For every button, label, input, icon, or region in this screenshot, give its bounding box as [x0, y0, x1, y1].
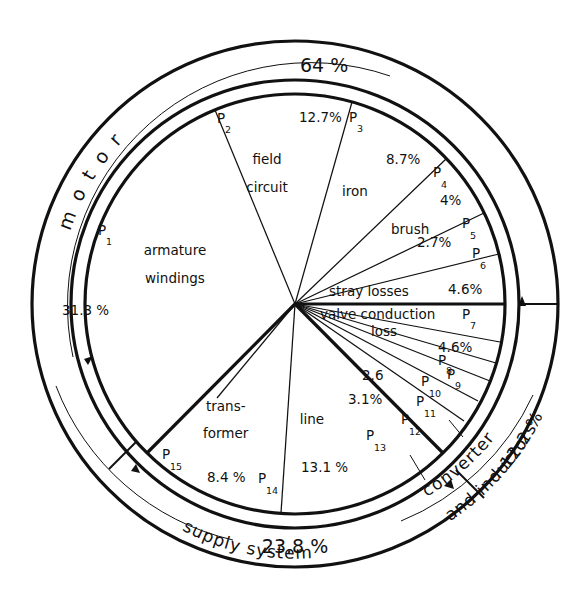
ray-p14-p15 — [217, 304, 295, 398]
p5-tag: P — [462, 215, 470, 231]
p11-tag: P — [416, 393, 424, 409]
valve-label-line1: valve conduction — [320, 306, 435, 322]
p3-percent: 8.7% — [386, 151, 420, 167]
p13-percent: 13.1 % — [301, 459, 348, 475]
p10-subscript: 10 — [429, 388, 441, 399]
p2-subscript: 2 — [225, 124, 231, 135]
slice-label-p7: valve conduction loss P 7 4.6% — [320, 306, 476, 355]
p6-percent: 4.6% — [448, 281, 482, 297]
p4-subscript: 4 — [441, 179, 447, 190]
stray-losses-label: stray losses — [329, 283, 409, 299]
leader-p12-callout — [449, 420, 463, 437]
field-label-line2: circuit — [246, 179, 287, 195]
transformer-label-line1: trans- — [206, 398, 246, 414]
ray-p1-p2 — [215, 110, 295, 304]
line-label: line — [300, 411, 324, 427]
p6-subscript: 6 — [480, 260, 486, 271]
p15-subscript: 15 — [170, 461, 182, 472]
p4-tag: P — [433, 164, 441, 180]
p15-tag: P — [162, 446, 170, 462]
p3-tag: P — [349, 109, 357, 125]
p10-tag: P — [421, 373, 429, 389]
p13-tag: P — [366, 427, 374, 443]
p1-tag: P — [98, 222, 106, 238]
p10-percent: 2.6 — [362, 367, 383, 383]
p5-percent: 2.7% — [417, 234, 451, 250]
p9-tag: P — [447, 366, 455, 382]
valve-label-line2: loss — [371, 323, 397, 339]
p14-subscript: 14 — [266, 485, 278, 496]
p7-tag: P — [462, 306, 470, 322]
p5-subscript: 5 — [470, 230, 476, 241]
p9-subscript: 9 — [455, 380, 461, 391]
slice-label-p13: line P 13 13.1 % — [300, 411, 386, 475]
iron-label: iron — [342, 183, 368, 199]
field-label-line1: field — [252, 151, 281, 167]
armature-label-line2: windings — [145, 270, 205, 286]
armature-label-line1: armature — [144, 242, 206, 258]
supply-band-percent: 23.8 % — [262, 535, 328, 557]
p14-tag: P — [258, 470, 266, 486]
slice-label-p4: brush P 4 4% — [391, 164, 462, 237]
slice-label-p14: P 14 — [258, 470, 278, 496]
p11-percent: 3.1% — [348, 391, 382, 407]
p15-percent: 8.4 % — [207, 469, 246, 485]
p13-subscript: 13 — [374, 442, 386, 453]
p12-tag: P — [401, 411, 409, 427]
p3-subscript: 3 — [357, 123, 363, 134]
slice-label-p1: armature windings 31.3 % P 1 — [62, 222, 206, 318]
p1-percent: 31.3 % — [62, 302, 109, 318]
p1-subscript: 1 — [106, 236, 112, 247]
ray-p13-p14 — [281, 304, 295, 513]
transformer-label-line2: former — [203, 425, 249, 441]
p6-tag: P — [472, 245, 480, 261]
p11-subscript: 11 — [424, 408, 436, 419]
slice-label-p3: iron P 3 8.7% — [342, 109, 420, 199]
p8-tag: P — [438, 352, 446, 368]
slice-label-p15: trans- former P 15 8.4 % — [162, 398, 249, 485]
slice-label-p9: P 9 — [447, 366, 461, 391]
p12-subscript: 12 — [409, 426, 421, 437]
p4-percent: 4% — [440, 192, 462, 208]
p7-subscript: 7 — [470, 320, 476, 331]
loss-distribution-pie-figure: armature windings 31.3 % P 1 field circu… — [0, 0, 584, 606]
slice-label-p2: field circuit P 2 12.7% — [217, 109, 342, 195]
p2-tag: P — [217, 110, 225, 126]
slice-label-p11: P 11 3.1% — [348, 391, 436, 419]
slice-label-p12: P 12 — [401, 411, 421, 437]
p2-percent: 12.7% — [299, 109, 342, 125]
motor-band-percent: 64 % — [300, 54, 348, 76]
slice-label-p6: P 6 stray losses 4.6% — [329, 245, 486, 299]
ray-p2-p3 — [295, 102, 352, 304]
